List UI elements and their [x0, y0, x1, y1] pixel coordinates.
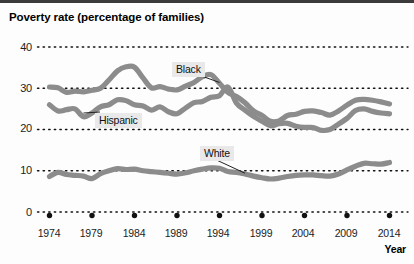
chart-figure: Poverty rate (percentage of families) 40… [0, 0, 414, 264]
series-label-black: Black [172, 62, 205, 77]
gridlines [38, 47, 409, 212]
series-label-white: White [200, 146, 234, 161]
plot-area [0, 0, 414, 264]
x-tick-dots [47, 213, 392, 218]
series-label-hispanic: Hispanic [95, 113, 142, 128]
